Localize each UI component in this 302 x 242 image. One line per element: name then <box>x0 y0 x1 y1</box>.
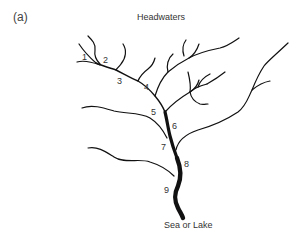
tributary-4c <box>183 40 186 56</box>
tributary-5e <box>190 92 208 104</box>
segment-label-2: 2 <box>103 56 108 65</box>
main-stem-upper <box>96 63 165 112</box>
tributary-3 <box>138 58 155 81</box>
main-trunk-lower <box>175 158 183 218</box>
segment-label-5: 5 <box>151 108 156 117</box>
segment-label-7: 7 <box>161 143 166 152</box>
tributary-1b <box>88 36 100 64</box>
segment-label-8: 8 <box>184 160 189 169</box>
tributary-2 <box>116 44 125 70</box>
tributary-right-long <box>176 43 288 150</box>
main-trunk-mid <box>165 112 177 158</box>
segment-label-6: 6 <box>172 122 177 131</box>
segment-label-3: 3 <box>117 77 122 86</box>
segment-label-9: 9 <box>164 186 169 195</box>
tributary-5f <box>188 72 190 92</box>
tributary-4d <box>189 38 239 58</box>
segment-label-1: 1 <box>82 53 87 62</box>
stream-network-svg <box>0 0 302 242</box>
tributary-4 <box>155 44 199 96</box>
segment-label-4: 4 <box>144 83 149 92</box>
tributary-5 <box>165 80 199 112</box>
